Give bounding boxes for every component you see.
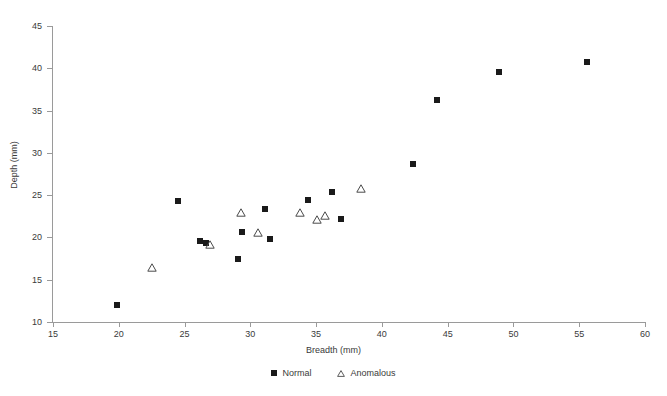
plot-area [53, 26, 645, 322]
x-axis-tick [250, 323, 251, 327]
scatter-plot: 1015202530354045 15202530354045505560 Br… [0, 0, 667, 396]
y-axis-tick [47, 111, 52, 112]
x-axis-tick [382, 323, 383, 327]
y-axis-tick [47, 68, 52, 69]
x-axis-tick-label: 25 [165, 330, 205, 339]
data-point-normal [235, 256, 241, 262]
legend-item-normal[interactable]: Normal [271, 368, 311, 378]
y-axis-tick-label: 15 [0, 276, 42, 285]
data-point-normal [338, 216, 344, 222]
data-point-normal [584, 59, 590, 65]
data-point-normal [267, 236, 273, 242]
y-axis-tick-label: 40 [0, 64, 42, 73]
x-axis-tick [513, 323, 514, 327]
x-axis-title: Breadth (mm) [0, 345, 667, 355]
y-axis-tick-label: 45 [0, 22, 42, 31]
y-axis-tick [47, 280, 52, 281]
legend-label: Normal [282, 368, 311, 378]
y-axis-tick [47, 153, 52, 154]
x-axis-tick [185, 323, 186, 327]
x-axis-tick [645, 323, 646, 327]
legend-item-anomalous[interactable]: Anomalous [337, 368, 395, 378]
legend-triangle-icon [337, 369, 345, 377]
x-axis-line [52, 322, 646, 323]
y-axis-tick [47, 322, 52, 323]
x-axis-tick-label: 60 [625, 330, 665, 339]
data-point-normal [329, 189, 335, 195]
data-point-normal [262, 206, 268, 212]
data-point-normal [496, 69, 502, 75]
y-axis-tick-label: 20 [0, 233, 42, 242]
y-axis-tick-label: 25 [0, 191, 42, 200]
y-axis-title: Depth (mm) [9, 115, 19, 215]
data-point-normal [114, 302, 120, 308]
x-axis-tick-label: 55 [559, 330, 599, 339]
x-axis-tick-label: 45 [428, 330, 468, 339]
y-axis-tick [47, 26, 52, 27]
x-axis-tick-label: 15 [33, 330, 73, 339]
x-axis-tick [448, 323, 449, 327]
x-axis-tick [53, 323, 54, 327]
x-axis-tick [119, 323, 120, 327]
data-point-normal [175, 198, 181, 204]
x-axis-tick-label: 30 [230, 330, 270, 339]
x-axis-tick [579, 323, 580, 327]
y-axis-tick [47, 237, 52, 238]
y-axis-tick-label: 10 [0, 318, 42, 327]
data-point-normal [434, 97, 440, 103]
x-axis-tick-label: 35 [296, 330, 336, 339]
x-axis-tick [316, 323, 317, 327]
y-axis-tick-label: 35 [0, 107, 42, 116]
x-axis-tick-label: 50 [493, 330, 533, 339]
legend-label: Anomalous [350, 368, 395, 378]
data-point-normal [410, 161, 416, 167]
x-axis-tick-label: 20 [99, 330, 139, 339]
x-axis-tick-label: 40 [362, 330, 402, 339]
y-axis-tick-label: 30 [0, 149, 42, 158]
legend-square-icon [271, 370, 277, 376]
y-axis-tick [47, 195, 52, 196]
chart-legend: NormalAnomalous [0, 368, 667, 378]
data-point-normal [305, 197, 311, 203]
data-point-normal [239, 229, 245, 235]
